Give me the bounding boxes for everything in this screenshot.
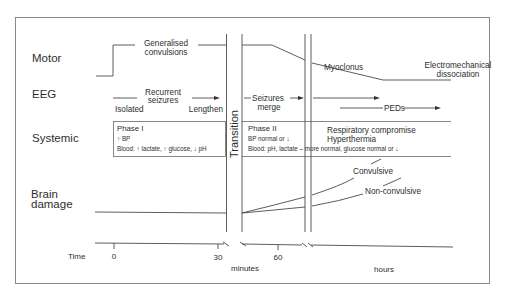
motor-decline-line-1 xyxy=(242,45,305,60)
emd-label-2: dissociation xyxy=(437,70,480,79)
status-epilepticus-diagram: Motor EEG Systemic Brain damage Time Gen… xyxy=(0,0,519,301)
phase2-blood: Blood: pH, lactate – more normal, glucos… xyxy=(248,145,399,153)
myoclonus-label: Myoclonus xyxy=(324,63,363,72)
hyperthermia-label: Hyperthermia xyxy=(327,135,377,144)
phase2-title: Phase II xyxy=(248,124,277,133)
non-convulsive-curve-1 xyxy=(242,207,305,213)
seizures-merge-label-1: Seizures xyxy=(252,94,284,103)
phase1-title: Phase I xyxy=(117,124,143,133)
generalised-convulsions-label-2: convulsions xyxy=(145,48,188,57)
convulsive-label: Convulsive xyxy=(353,167,393,176)
convulsive-curve-1 xyxy=(242,197,305,213)
hours-label: hours xyxy=(374,265,394,274)
row-label-systemic: Systemic xyxy=(32,132,79,144)
time-axis-segment-2 xyxy=(242,244,302,245)
time-axis-segment-3 xyxy=(311,245,453,247)
isolated-label: Isolated xyxy=(115,105,144,114)
respiratory-compromise-label: Respiratory compromise xyxy=(327,126,416,135)
non-convulsive-leader xyxy=(383,178,401,186)
seizures-merge-label-2: merge xyxy=(257,103,281,112)
convulsive-leader xyxy=(371,159,381,164)
row-label-damage: damage xyxy=(31,198,73,210)
brain-damage-baseline xyxy=(95,212,226,213)
emd-label-1: Electromechanical xyxy=(425,61,492,70)
arrow-head-icon xyxy=(435,106,441,110)
arrow-head-icon xyxy=(298,96,304,100)
generalised-convulsions-label-1: Generalised xyxy=(144,39,189,48)
non-convulsive-label: Non-convulsive xyxy=(365,187,421,196)
non-convulsive-curve-2 xyxy=(312,194,363,206)
lengthen-label: Lengthen xyxy=(189,105,224,114)
phase1-bp: ↑ BP xyxy=(117,135,130,142)
phase1-blood: Blood: ↑ lactate, ↑ glucose, ↓ pH xyxy=(117,145,207,153)
peds-label: PEDs xyxy=(384,104,405,113)
tick-label-0: 0 xyxy=(112,252,117,261)
arrow-head-icon xyxy=(374,96,380,100)
phase2-bp: BP normal or ↓ xyxy=(248,135,290,142)
tick-label-60: 60 xyxy=(274,253,283,262)
motor-onset-line xyxy=(96,45,135,76)
arrow-head-icon xyxy=(214,96,220,100)
tick-label-30: 30 xyxy=(214,253,223,262)
minutes-label: minutes xyxy=(231,264,259,273)
transition-label: Transition xyxy=(228,110,240,158)
convulsive-curve-2 xyxy=(312,178,354,195)
row-label-motor: Motor xyxy=(32,52,62,64)
axis-break-mark xyxy=(302,243,307,247)
row-label-time: Time xyxy=(68,252,86,261)
recurrent-seizures-label-2: seizures xyxy=(148,96,179,105)
row-label-eeg: EEG xyxy=(32,88,56,100)
